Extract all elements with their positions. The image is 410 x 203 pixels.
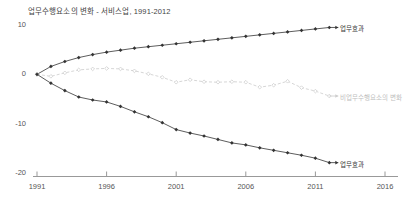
y-axis-tick-label: 0 [0, 69, 26, 78]
series-marker [272, 83, 276, 87]
series-marker [105, 67, 109, 71]
series-marker [314, 156, 318, 160]
series-marker [300, 86, 304, 90]
series-marker [188, 40, 192, 44]
series-marker [63, 71, 67, 75]
y-axis-tick-label: -20 [0, 168, 26, 177]
series-end-label-bottom: 업무효과 [340, 159, 364, 169]
chart-axes [33, 172, 398, 177]
series-marker [244, 35, 248, 39]
series-marker [133, 46, 137, 50]
series-marker [160, 75, 164, 79]
x-axis-tick-label: 2006 [226, 182, 266, 191]
series-marker [91, 53, 95, 57]
x-axis-tick-marks [37, 172, 385, 177]
series-marker [202, 39, 206, 43]
series-marker [286, 79, 290, 83]
x-axis-tick-label: 2016 [365, 182, 405, 191]
series-marker [147, 115, 151, 119]
series-marker [272, 32, 276, 36]
series-marker [258, 85, 262, 89]
series-marker [300, 153, 304, 157]
series-marker [286, 30, 290, 34]
series-marker [77, 68, 81, 72]
series-marker [119, 48, 123, 52]
series-marker [160, 43, 164, 47]
series-marker [272, 148, 276, 152]
series-label-arrowhead [335, 94, 338, 98]
series-marker [147, 72, 151, 76]
series-marker [174, 128, 178, 132]
series-marker [216, 37, 220, 41]
series-marker [105, 50, 109, 54]
series-marker [188, 78, 192, 82]
x-axis-tick-label: 2001 [156, 182, 196, 191]
series-marker [314, 27, 318, 31]
series-marker [77, 95, 81, 99]
chart-container: 업무수행요소의 변화 - 서비스업, 1991-2012 100-10-20 1… [0, 0, 410, 203]
series-marker [133, 110, 137, 114]
series-marker [105, 100, 109, 104]
chart-series-group [35, 26, 338, 165]
series-marker [216, 138, 220, 142]
series-marker [230, 141, 234, 145]
series-marker [314, 89, 318, 93]
series-marker [244, 80, 248, 84]
series-marker [258, 33, 262, 37]
series-marker [216, 80, 220, 84]
series-marker [244, 143, 248, 147]
series-marker [300, 29, 304, 33]
series-marker [63, 60, 67, 64]
series-end-label-top: 업무효과 [340, 23, 364, 33]
series-marker [286, 151, 290, 155]
series-marker [160, 121, 164, 125]
series-marker [133, 69, 137, 73]
series-label-arrowhead [335, 161, 338, 165]
series-marker [119, 105, 123, 109]
series-marker [174, 42, 178, 46]
series-marker [174, 80, 178, 84]
series-marker [188, 131, 192, 135]
series-marker [77, 56, 81, 60]
series-line [37, 27, 329, 74]
series-line [37, 74, 329, 162]
x-axis-tick-label: 1996 [87, 182, 127, 191]
series-marker [230, 80, 234, 84]
x-axis-tick-label: 2011 [295, 182, 335, 191]
series-marker [49, 65, 53, 69]
series-marker [63, 89, 67, 93]
series-end-label-middle: 비업무수행요소의 변화 [340, 92, 402, 102]
series-marker [258, 146, 262, 150]
x-axis-tick-label: 1991 [17, 182, 57, 191]
series-line [37, 68, 329, 96]
series-marker [91, 67, 95, 71]
series-marker [91, 98, 95, 102]
series-marker [49, 74, 53, 78]
y-axis-tick-label: -10 [0, 119, 26, 128]
series-marker [147, 45, 151, 49]
series-marker [202, 80, 206, 84]
series-marker [202, 134, 206, 138]
series-marker [230, 36, 234, 40]
series-marker [119, 67, 123, 71]
series-label-arrowhead [335, 26, 338, 30]
y-axis-tick-label: 10 [0, 20, 26, 29]
